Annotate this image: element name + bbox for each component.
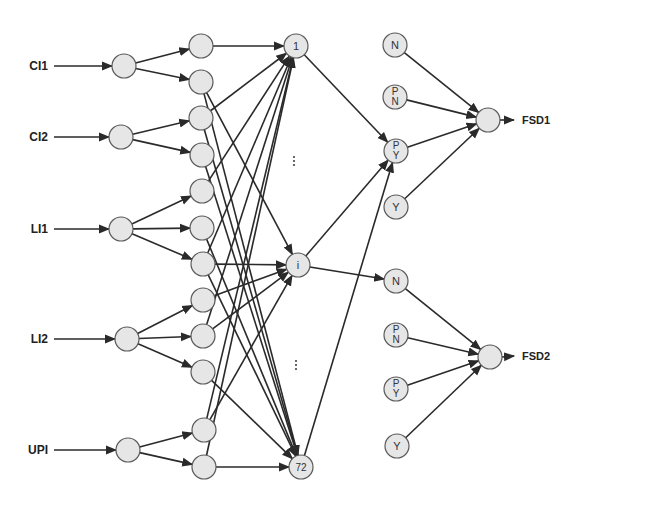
input-label-ci2: CI2 — [29, 130, 48, 144]
edge-l1-l2 — [133, 140, 191, 153]
edge-l1-l2 — [136, 49, 190, 63]
layer2-node-11 — [192, 418, 216, 442]
edge-l4-output — [406, 365, 482, 437]
layer4-node-2-label: PN — [391, 86, 398, 107]
edge-output-2 — [502, 356, 514, 357]
edge-l2-l3 — [211, 53, 287, 111]
layer3-node-72-label: 72 — [295, 462, 307, 473]
layer2-node-1 — [189, 34, 213, 58]
layer1-node-4 — [115, 327, 139, 351]
layer4-node-6-label: PN — [392, 324, 399, 345]
edge-l2-l3 — [215, 264, 286, 265]
edge-l1-l2 — [132, 234, 192, 260]
output-label-fsd1: FSD1 — [522, 114, 550, 126]
edge-l2-l3 — [207, 58, 293, 419]
layer2-node-2 — [189, 70, 213, 94]
nodes: 1i72NPNPYYNPNPYY — [109, 33, 502, 479]
edge-l1-l2 — [133, 228, 190, 229]
layer2-node-4 — [190, 143, 214, 167]
edge-l4-output — [404, 53, 478, 113]
edge-l1-l2 — [133, 121, 190, 134]
neural-network-diagram: 1i72NPNPYYNPNPYY CI1CI2LI1LI2UPIFSD1FSD2 — [0, 0, 647, 512]
edge-l3-l4 — [304, 55, 387, 143]
layer4-node-7-label: PY — [393, 378, 400, 399]
layer1-node-1 — [112, 54, 136, 78]
edge-l1-l2 — [140, 453, 193, 465]
input-label-li2: LI2 — [31, 332, 49, 346]
output-label-fsd2: FSD2 — [522, 350, 550, 362]
edge-l1-l2 — [138, 344, 192, 367]
layer3-node-1-label: 1 — [293, 40, 299, 52]
input-label-upi: UPI — [28, 443, 48, 457]
edge-l4-output — [407, 124, 476, 147]
ellipsis-icon — [293, 164, 295, 166]
layer4-node-5-label: N — [392, 275, 400, 287]
layer3-node-i-label: i — [297, 259, 299, 271]
layer4-node-3-label: PY — [393, 140, 400, 161]
layer2-node-12 — [192, 455, 216, 479]
layer1-node-5 — [116, 438, 140, 462]
edge-l2-l3 — [208, 275, 296, 456]
edge-l4-output — [405, 128, 480, 199]
layer1-node-3 — [109, 217, 133, 241]
edge-l4-output — [407, 361, 478, 385]
edge-l2-l3 — [204, 130, 297, 456]
layer2-node-7 — [191, 252, 215, 276]
layer2-node-10 — [191, 360, 215, 384]
ellipsis-icon — [295, 368, 297, 370]
ellipsis-icon — [295, 364, 297, 366]
edge-l1-l2 — [136, 68, 190, 79]
input-label-ci1: CI1 — [29, 59, 48, 73]
ellipsis-icon — [293, 156, 295, 158]
output-node-1 — [476, 108, 500, 132]
input-label-li1: LI1 — [31, 222, 49, 236]
layer2-node-6 — [190, 216, 214, 240]
layer2-node-8 — [191, 288, 215, 312]
edge-l3-l4 — [310, 267, 384, 279]
edge-l1-l2 — [139, 336, 191, 338]
layer1-node-2 — [109, 125, 133, 149]
edge-l1-l2 — [132, 196, 191, 224]
edge-l1-l2 — [140, 433, 193, 447]
edge-l4-output — [408, 338, 479, 355]
edge-l1-l2 — [138, 305, 193, 333]
edge-l3-l4 — [306, 160, 388, 256]
output-node-2 — [478, 345, 502, 369]
connections — [54, 46, 514, 467]
layer2-node-3 — [189, 106, 213, 130]
layer4-node-8-label: Y — [393, 440, 401, 452]
edge-l2-l3 — [207, 239, 297, 456]
layer4-node-1-label: N — [391, 39, 399, 51]
layer2-node-5 — [190, 179, 214, 203]
ellipsis-icon — [295, 360, 297, 362]
layer2-node-9 — [191, 324, 215, 348]
edge-l2-l3 — [206, 166, 298, 455]
ellipsis-icon — [293, 160, 295, 162]
layer4-node-4-label: Y — [392, 201, 400, 213]
